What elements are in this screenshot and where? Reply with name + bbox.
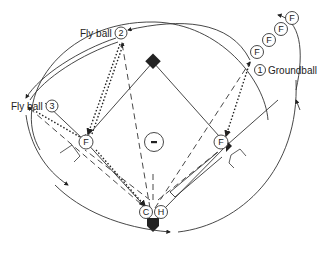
fielder-third-label: F	[83, 137, 89, 147]
fly-ball-3-label: Fly ball	[11, 101, 43, 112]
svg-text:F: F	[278, 24, 284, 34]
fielder-queue: F F F F	[251, 12, 299, 59]
coach-box-left	[60, 145, 80, 162]
outfield-arc	[31, 22, 268, 150]
position-2-number: 2	[118, 28, 123, 38]
hitter-label: H	[158, 207, 165, 217]
second-base	[145, 54, 161, 70]
svg-text:F: F	[254, 47, 260, 57]
fielder-first-label: F	[218, 137, 224, 147]
position-1-number: 1	[257, 65, 262, 75]
baseball-drill-diagram: Fly ball 2 Fly ball 3 1 Groundball F F F…	[0, 0, 336, 254]
catcher-label: C	[143, 207, 150, 217]
groundball-label: Groundball	[268, 65, 317, 76]
svg-text:F: F	[266, 35, 272, 45]
fly-ball-2-label: Fly ball	[80, 28, 112, 39]
coach-box-right	[229, 149, 246, 168]
pitcher-rubber	[151, 141, 157, 143]
svg-text:F: F	[289, 13, 295, 23]
position-3-number: 3	[49, 101, 54, 111]
